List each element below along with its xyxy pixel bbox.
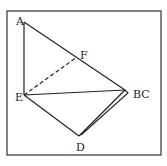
point-label-d: D <box>76 141 85 154</box>
geometry-diagram: AFEBCD <box>0 0 167 166</box>
point-label-a: A <box>15 15 25 28</box>
segment-a-bc <box>24 22 125 90</box>
segment-e-d <box>24 95 79 136</box>
segment-e-f <box>24 57 77 95</box>
segment-e-bc <box>24 90 125 95</box>
point-label-bc: BC <box>133 88 150 101</box>
diagram-segments <box>24 22 125 136</box>
point-label-e: E <box>15 91 23 104</box>
point-label-f: F <box>80 49 88 62</box>
segment-d-bc <box>79 90 125 136</box>
folded-edge-d-bc <box>81 90 128 135</box>
diagram-frame <box>7 11 161 155</box>
